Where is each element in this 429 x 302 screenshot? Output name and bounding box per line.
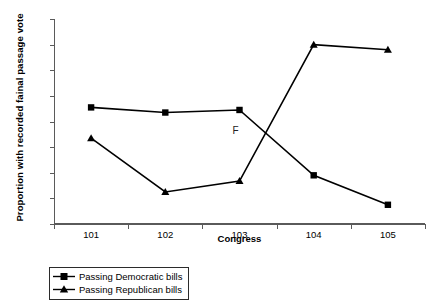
x-axis-title: Congress [54,233,425,244]
legend-label-democratic: Passing Democratic bills [79,271,182,282]
legend-label-republican: Passing Republican bills [79,284,182,295]
legend: Passing Democratic bills Passing Republi… [49,267,189,300]
chart-root: Proportion with recorded fainal passage … [0,0,429,302]
square-marker-icon [53,271,75,282]
data-point [162,109,168,115]
data-point [87,134,95,141]
legend-item-republican[interactable]: Passing Republican bills [53,283,182,296]
x-tick [351,224,352,229]
legend-item-democratic[interactable]: Passing Democratic bills [53,270,182,283]
data-point [88,104,94,110]
annotation-f: F [233,125,239,136]
x-tick [425,224,426,229]
series-line-2 [91,45,388,192]
x-tick [54,224,55,229]
triangle-marker-icon [53,284,75,295]
x-tick [128,224,129,229]
x-tick [202,224,203,229]
plot-area: 00.020.040.060.080.10.120.140.16 1011021… [54,19,425,224]
data-point [311,172,317,178]
series-plot [54,19,425,224]
data-point [236,107,242,113]
data-point [385,202,391,208]
x-tick [277,224,278,229]
y-axis-title: Proportion with recorded fainal passage … [14,3,25,233]
data-point [236,177,244,184]
series-line-1 [91,107,388,204]
